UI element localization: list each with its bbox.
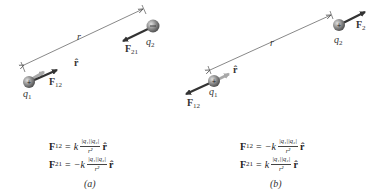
panel-a-drawing: + — [21, 5, 160, 88]
eq-equals: = — [65, 141, 71, 152]
eq-coef: k — [74, 141, 78, 152]
eq-unit-vector: r̂ — [102, 141, 106, 152]
force-f2-label: F2 — [356, 19, 366, 32]
svg-text:+: + — [212, 78, 216, 85]
eq-denominator: r² — [286, 147, 290, 155]
svg-text:+: + — [337, 22, 341, 29]
unit-vector-label: r̂ — [233, 64, 237, 75]
equation-f21-a: F21 = −k |q₁||q₂|r² r̂ — [49, 156, 114, 172]
eq-equals: = — [65, 159, 71, 170]
eq-unit-vector: r̂ — [300, 141, 304, 152]
charge-q2-label: q2 — [334, 34, 343, 47]
eq-lhs-sub: 12 — [246, 142, 253, 150]
svg-text:+: + — [27, 79, 31, 86]
eq-lhs-sub: 12 — [55, 142, 62, 150]
force-f21-label: F21 — [125, 43, 138, 56]
eq-numerator: |q₁||q₂| — [80, 138, 100, 147]
distance-label: r — [270, 37, 274, 48]
charge-q1-label: q1 — [209, 86, 218, 99]
eq-numerator: |q₁||q₂| — [87, 156, 107, 165]
charge-q2: + — [333, 19, 345, 31]
force-arrow-f12 — [186, 83, 210, 94]
charge-subscript: 1 — [28, 93, 32, 101]
equation-f21-b: F21 = k |q₁||q₂|r² r̂ — [240, 156, 298, 172]
force-subscript: 2 — [362, 24, 366, 32]
force-f12-label: F12 — [49, 76, 62, 89]
charge-subscript: 2 — [151, 41, 155, 49]
unit-vector-label: r̂ — [74, 57, 78, 68]
eq-coef: −k — [265, 141, 276, 152]
eq-fraction: |q₁||q₂|r² — [278, 138, 298, 154]
eq-coef: −k — [74, 159, 85, 170]
eq-denominator: r² — [95, 165, 99, 173]
eq-equals: = — [256, 159, 262, 170]
caption-b: (b) — [270, 178, 282, 189]
force-f12-label: F12 — [187, 97, 200, 110]
eq-lhs-sub: 21 — [55, 160, 62, 168]
distance-label: r — [77, 31, 81, 42]
eq-equals: = — [256, 141, 262, 152]
equation-f12-a: F12 = k |q₁||q₂|r² r̂ — [49, 138, 107, 154]
charge-subscript: 2 — [339, 39, 343, 47]
eq-unit-vector: r̂ — [293, 159, 297, 170]
eq-unit-vector: r̂ — [109, 159, 113, 170]
force-subscript: 21 — [131, 48, 138, 56]
charge-subscript: 1 — [214, 91, 218, 99]
eq-fraction: |q₁||q₂|r² — [271, 156, 291, 172]
charge-q2 — [147, 20, 160, 33]
eq-lhs-sub: 21 — [246, 160, 253, 168]
eq-denominator: r² — [279, 165, 283, 173]
panel-b-drawing: + + — [186, 11, 365, 94]
eq-numerator: |q₁||q₂| — [271, 156, 291, 165]
eq-denominator: r² — [88, 147, 92, 155]
force-subscript: 12 — [193, 102, 200, 110]
caption-a: (a) — [84, 178, 96, 189]
charge-q2-label: q2 — [146, 36, 155, 49]
eq-fraction: |q₁||q₂|r² — [87, 156, 107, 172]
equation-f12-b: F12 = −k |q₁||q₂|r² r̂ — [240, 138, 305, 154]
eq-fraction: |q₁||q₂|r² — [80, 138, 100, 154]
charge-q1-label: q1 — [23, 88, 32, 101]
eq-numerator: |q₁||q₂| — [278, 138, 298, 147]
eq-coef: k — [265, 159, 269, 170]
force-subscript: 12 — [55, 81, 62, 89]
charge-q1: + — [23, 76, 35, 88]
